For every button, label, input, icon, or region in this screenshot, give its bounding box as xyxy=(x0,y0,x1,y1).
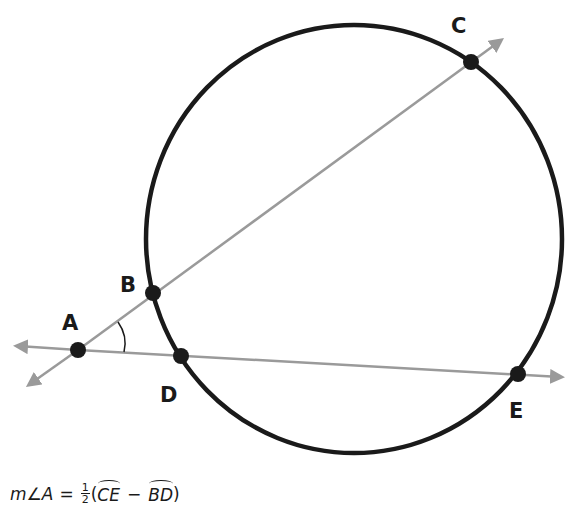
point-e xyxy=(510,366,526,382)
angle-symbol: ∠ xyxy=(27,484,42,504)
secant-line-ade-back xyxy=(18,346,78,350)
equals-sign: = xyxy=(59,484,73,504)
arc-bd: BD xyxy=(148,483,173,505)
secant-line-abc xyxy=(78,41,500,350)
angle-arc-marker xyxy=(118,322,125,352)
secant-line-abc-back xyxy=(30,350,78,384)
point-a xyxy=(70,342,86,358)
label-c: C xyxy=(451,14,466,38)
label-d: D xyxy=(160,383,177,407)
formula-m: m xyxy=(10,484,27,504)
minus-sign: − xyxy=(127,484,141,504)
close-paren: ) xyxy=(173,484,180,504)
circle xyxy=(146,25,562,453)
open-paren: ( xyxy=(91,484,98,504)
point-b xyxy=(145,285,161,301)
angle-formula: m ∠ A = 1 2 ( CE − BD ) xyxy=(10,482,180,505)
fraction-one-half: 1 2 xyxy=(81,482,90,505)
point-c xyxy=(463,54,479,70)
label-b: B xyxy=(120,273,136,297)
point-d xyxy=(173,348,189,364)
arc-ce: CE xyxy=(97,483,120,505)
secant-line-ade xyxy=(78,350,560,377)
secant-angle-diagram: A B C D E xyxy=(0,0,577,529)
fraction-denominator: 2 xyxy=(82,494,89,505)
label-e: E xyxy=(509,399,523,423)
formula-vertex: A xyxy=(42,484,54,504)
label-a: A xyxy=(62,311,79,335)
